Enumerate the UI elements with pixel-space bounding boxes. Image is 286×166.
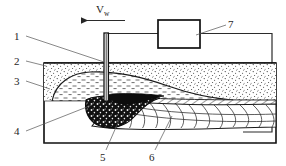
electrode-wire bbox=[104, 33, 108, 101]
callout-1: 1 bbox=[14, 30, 20, 42]
callout-5: 5 bbox=[100, 151, 106, 163]
velocity-symbol: Vw bbox=[96, 3, 110, 18]
callout-4: 4 bbox=[14, 125, 20, 137]
callout-6: 6 bbox=[149, 151, 155, 163]
callout-7: 7 bbox=[228, 18, 234, 30]
figure-canvas: Vw bbox=[0, 0, 286, 166]
callout-3: 3 bbox=[14, 75, 20, 87]
welding-velocity-annotation: Vw bbox=[81, 3, 125, 21]
power-source-box bbox=[158, 20, 200, 48]
callout-2: 2 bbox=[14, 55, 20, 67]
